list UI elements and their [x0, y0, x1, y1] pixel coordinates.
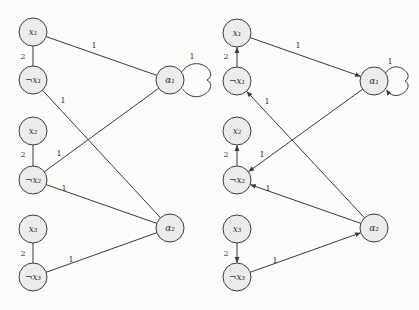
node-label: ¬x₃	[25, 272, 42, 282]
loop-weight-label: 1	[189, 52, 194, 61]
node-label: x₁	[233, 28, 242, 38]
edge-weight-label: 1	[265, 184, 270, 193]
edge-weight-label: 1	[60, 96, 65, 105]
node-nx2: ¬x₂	[223, 166, 251, 194]
node-label: ¬x₂	[25, 175, 42, 185]
edge-x1-a1: 1	[46, 37, 157, 76]
undirected-graph: 211211211x₁¬x₁x₂¬x₂x₃¬x₃α₁α₂	[19, 18, 211, 291]
node-x3: x₃	[19, 215, 47, 243]
node-a1: α₁	[360, 67, 388, 95]
node-nx1: ¬x₁	[19, 66, 47, 94]
edge-weight-label: 1	[61, 184, 66, 193]
edges: 211211211	[20, 37, 210, 273]
node-label: ¬x₁	[229, 76, 245, 86]
edge-weight-label: 2	[20, 150, 25, 159]
edge-weight-label: 2	[20, 249, 25, 258]
node-label: x₃	[29, 224, 38, 234]
edge-a2-nx2: 1	[251, 184, 361, 223]
node-x3: x₃	[223, 215, 251, 243]
edge-x3-nx3: 2	[20, 243, 33, 263]
node-label: α₂	[165, 223, 175, 233]
edge-weight-label: 1	[295, 41, 300, 50]
edge-weight-label: 1	[56, 149, 61, 158]
node-label: x₁	[29, 27, 38, 37]
node-x2: x₂	[19, 117, 47, 145]
edge-weight-label: 2	[223, 52, 228, 61]
edge-weight-label: 1	[68, 255, 73, 264]
node-label: α₁	[165, 75, 175, 85]
edge-weight-label: 2	[20, 52, 25, 61]
loop-weight-label: 1	[387, 57, 392, 66]
node-label: ¬x₁	[25, 75, 41, 85]
edge-x1-a1: 1	[250, 38, 360, 77]
edge-weight-label: 1	[272, 256, 277, 265]
node-a1: α₁	[156, 66, 184, 94]
node-x1: x₁	[223, 19, 251, 47]
node-label: α₂	[369, 223, 379, 233]
edge-nx3-a2: 1	[250, 233, 360, 272]
edge-nx2-a2: 1	[46, 184, 157, 223]
node-nx2: ¬x₂	[19, 166, 47, 194]
node-x2: x₂	[223, 117, 251, 145]
edge-nx2-x2: 2	[223, 146, 237, 167]
edge-nx1-x1: 2	[223, 48, 237, 68]
node-label: ¬x₂	[229, 175, 246, 185]
graph-canvas: 211211211x₁¬x₁x₂¬x₂x₃¬x₃α₁α₂ 211211211x₁…	[0, 0, 419, 310]
edge-weight-label: 1	[91, 41, 96, 50]
edge-x2-nx2: 2	[20, 145, 33, 166]
node-label: x₃	[233, 224, 242, 234]
edge-weight-label: 2	[223, 249, 228, 258]
node-a2: α₂	[360, 214, 388, 242]
node-nx3: ¬x₃	[19, 263, 47, 291]
self-loop-a1: 1	[182, 52, 211, 97]
node-label: x₂	[29, 126, 38, 136]
node-nx1: ¬x₁	[223, 67, 251, 95]
node-nx3: ¬x₃	[223, 263, 251, 291]
node-a2: α₂	[156, 214, 184, 242]
edge-weight-label: 1	[264, 97, 269, 106]
edge-x1-nx1: 2	[20, 46, 33, 66]
edge-x3-nx3: 2	[223, 243, 237, 263]
directed-graph: 211211211x₁¬x₁x₂¬x₂x₃¬x₃α₁α₂	[223, 19, 408, 291]
node-x1: x₁	[19, 18, 47, 46]
node-label: x₂	[233, 126, 242, 136]
edge-nx3-a2: 1	[46, 233, 157, 273]
self-loop-a1: 1	[386, 57, 409, 95]
node-label: α₁	[369, 76, 379, 86]
edge-weight-label: 1	[259, 150, 264, 159]
edge-weight-label: 2	[223, 150, 228, 159]
node-label: ¬x₃	[229, 272, 246, 282]
